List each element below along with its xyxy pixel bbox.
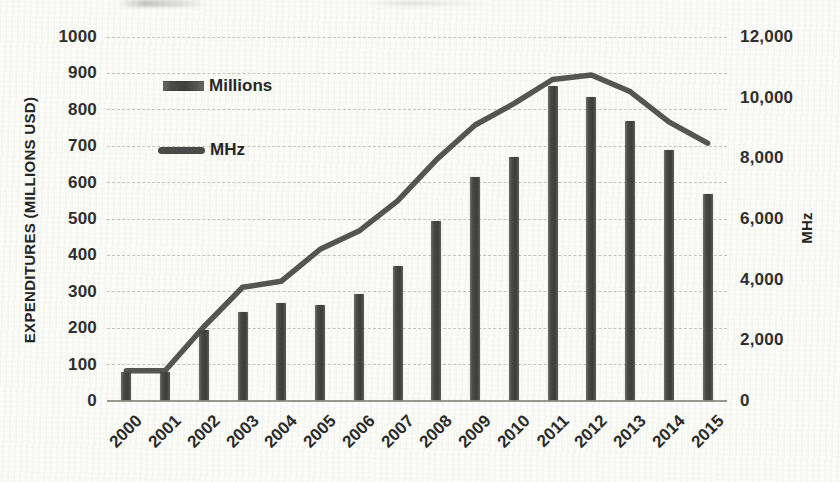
right-axis-tick-label: 12,000 — [740, 27, 810, 47]
legend-line-swatch-icon — [158, 147, 205, 154]
left-axis-tick-label: 700 — [35, 136, 97, 156]
scanned-chart-page: 01002003004005006007008009001000 02,0004… — [0, 0, 840, 482]
combo-chart: 01002003004005006007008009001000 02,0004… — [0, 0, 840, 482]
left-axis-tick-label: 800 — [35, 100, 97, 120]
left-axis-tick-label: 500 — [35, 209, 97, 229]
left-axis-tick-label: 200 — [35, 318, 97, 338]
legend-item-millions: Millions — [163, 76, 272, 96]
right-axis-tick-label: 0 — [740, 391, 810, 411]
left-axis-tick-label: 900 — [35, 63, 97, 83]
right-axis-tick-label: 4,000 — [740, 270, 810, 290]
legend-item-mhz: MHz — [158, 140, 245, 160]
left-axis-tick-label: 300 — [35, 282, 97, 302]
mhz-line-path — [126, 75, 707, 371]
right-axis-tick-label: 10,000 — [740, 88, 810, 108]
right-axis-tick-label: 2,000 — [740, 330, 810, 350]
legend-label-mhz: MHz — [210, 140, 245, 160]
left-axis-tick-label: 100 — [35, 355, 97, 375]
left-axis-tick-label: 1000 — [35, 27, 97, 47]
right-axis-title: MHz — [798, 212, 815, 244]
legend-label-millions: Millions — [209, 76, 272, 96]
left-axis-tick-label: 600 — [35, 173, 97, 193]
right-axis-tick-label: 8,000 — [740, 148, 810, 168]
x-axis-line — [107, 400, 727, 402]
legend-bar-swatch-icon — [163, 81, 204, 91]
scan-artifact-smudge — [360, 1, 490, 6]
scan-artifact-smudge — [118, 0, 208, 7]
left-axis-title: EXPENDITURES (MILLIONS USD) — [21, 97, 38, 343]
left-axis-tick-label: 400 — [35, 245, 97, 265]
left-axis-tick-label: 0 — [35, 391, 97, 411]
